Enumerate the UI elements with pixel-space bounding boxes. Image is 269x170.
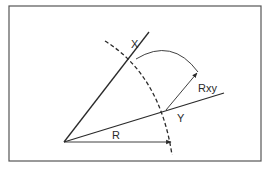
r-label: R [112,129,120,141]
diagram-border [9,6,261,161]
diagram-frame: X Y R Rxy [0,0,269,170]
y-label: Y [177,112,185,124]
rxy-label: Rxy [198,82,217,94]
rotation-diagram: X Y R Rxy [0,0,269,170]
y-line [64,93,224,142]
rotation-arc [136,51,198,72]
rxy-arrow [166,73,197,110]
x-label: X [131,38,139,50]
